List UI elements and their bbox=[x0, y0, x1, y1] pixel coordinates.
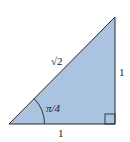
horizontal-side-label: 1 bbox=[58, 127, 64, 139]
triangle-diagram: √2 1 1 π/4 bbox=[0, 0, 130, 142]
hypotenuse-label: √2 bbox=[51, 55, 63, 67]
right-triangle bbox=[9, 17, 115, 124]
vertical-side-label: 1 bbox=[119, 66, 125, 78]
angle-label: π/4 bbox=[46, 102, 61, 114]
